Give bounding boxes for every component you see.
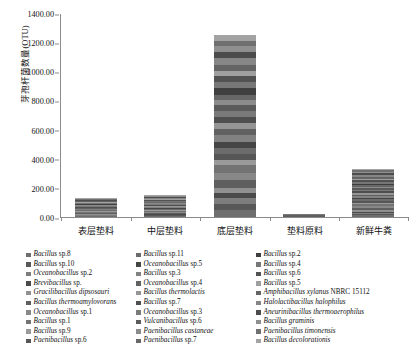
legend-item[interactable]: Brevibacillus sp. — [26, 279, 136, 289]
y-tick-label: 800.00 — [2, 97, 54, 106]
x-tick-mark — [270, 217, 271, 221]
stacked-bar[interactable] — [75, 198, 117, 217]
legend-swatch-icon — [256, 262, 261, 267]
x-tick-label: 新鲜牛粪 — [339, 218, 409, 244]
legend-label: Oceanobacillus sp.2 — [34, 269, 93, 279]
bar-group — [61, 14, 408, 217]
x-tick-label: 中层垫料 — [131, 218, 201, 244]
chart-legend: Bacillus sp.8Bacillus sp.10Oceanobacillu… — [0, 250, 416, 357]
stacked-bar[interactable] — [352, 169, 394, 217]
legend-label: Bacillus sp.4 — [264, 260, 301, 270]
legend-item[interactable]: Bacillus sp.7 — [136, 298, 256, 308]
stacked-bar[interactable] — [214, 35, 256, 217]
legend-item[interactable]: Bacillus sp.11 — [136, 250, 256, 260]
legend-item[interactable]: Oceanobacillus sp.3 — [136, 308, 256, 318]
y-tick-mark — [55, 131, 59, 132]
legend-item[interactable]: Oceanobacillus sp.2 — [26, 269, 136, 279]
legend-swatch-icon — [136, 320, 141, 325]
legend-label: Bacillus sp.8 — [34, 250, 71, 260]
y-tick-mark — [55, 43, 59, 44]
legend-label: Bacillus sp.11 — [144, 250, 184, 260]
legend-item[interactable]: Paenibacillus castaneae — [136, 327, 256, 337]
legend-label: Bacillus sp.9 — [34, 327, 71, 337]
legend-item[interactable]: Bacillus sp.2 — [256, 250, 416, 260]
legend-label: Brevibacillus sp. — [34, 279, 82, 289]
legend-swatch-icon — [136, 291, 141, 296]
legend-item[interactable]: Bacillus sp.6 — [256, 269, 416, 279]
legend-swatch-icon — [26, 272, 31, 277]
bar-slot — [61, 14, 130, 217]
legend-label: Bacillus thermoamylovorans — [34, 298, 117, 308]
chart-area: 芽孢杆菌数量(OTU) 1400.001200.001000.00800.006… — [0, 0, 416, 246]
chart-root: 芽孢杆菌数量(OTU) 1400.001200.001000.00800.006… — [0, 0, 416, 357]
legend-label: Bacillus sp.6 — [264, 269, 301, 279]
legend-label: Bacillus sp.2 — [264, 250, 301, 260]
legend-item[interactable]: Oceanobacillus sp.1 — [26, 308, 136, 318]
bar-segment — [214, 117, 256, 124]
legend-item[interactable]: Bacillus decolorationis — [256, 336, 416, 346]
legend-item[interactable]: Bacillus sp.4 — [256, 260, 416, 270]
legend-column: Bacillus sp.8Bacillus sp.10Oceanobacillu… — [26, 250, 136, 357]
legend-label: Aneurinibacillus thermoaerophilus — [264, 308, 365, 318]
legend-label: Bacillus graminis — [264, 317, 315, 327]
legend-item[interactable]: Gracilibacillus dipsosauri — [26, 288, 136, 298]
bar-segment — [214, 165, 256, 174]
legend-swatch-icon — [136, 253, 141, 258]
legend-item[interactable]: Bacillus thermoamylovorans — [26, 298, 136, 308]
plot-area: 1400.001200.001000.00800.00600.00400.002… — [60, 14, 408, 218]
bar-segment — [144, 216, 186, 217]
legend-swatch-icon — [256, 339, 261, 344]
legend-swatch-icon — [256, 310, 261, 315]
legend-swatch-icon — [26, 310, 31, 315]
x-tick-mark — [200, 217, 201, 221]
y-tick-mark — [55, 72, 59, 73]
legend-item[interactable]: Oceanobacillus sp.5 — [136, 260, 256, 270]
legend-swatch-icon — [136, 262, 141, 267]
legend-swatch-icon — [256, 291, 261, 296]
legend-label: Oceanobacillus sp.5 — [144, 260, 203, 270]
legend-item[interactable]: Vulcanibacillus sp.6 — [136, 317, 256, 327]
legend-item[interactable]: Bacillus sp.10 — [26, 260, 136, 270]
legend-item[interactable]: Aneurinibacillus thermoaerophilus — [256, 308, 416, 318]
legend-item[interactable]: Paenibacillus sp.7 — [136, 336, 256, 346]
legend-label: Bacillus sp.7 — [144, 298, 181, 308]
legend-label: Amphibacillus xylanus NBRC 15112 — [264, 288, 370, 298]
legend-item[interactable]: Paenibacillus sp.6 — [26, 336, 136, 346]
legend-item[interactable]: Bacillus sp.9 — [26, 327, 136, 337]
legend-swatch-icon — [26, 339, 31, 344]
legend-swatch-icon — [256, 253, 261, 258]
legend-item[interactable]: Bacillus sp.1 — [26, 317, 136, 327]
stacked-bar[interactable] — [283, 214, 325, 218]
legend-item[interactable]: Bacillus sp.3 — [136, 269, 256, 279]
legend-item[interactable]: Oceanobacillus sp.4 — [136, 279, 256, 289]
x-tick-mark — [408, 217, 409, 221]
legend-swatch-icon — [26, 301, 31, 306]
legend-item[interactable]: Bacillus sp.8 — [26, 250, 136, 260]
legend-swatch-icon — [136, 329, 141, 334]
legend-label: Oceanobacillus sp.1 — [34, 308, 93, 318]
legend-swatch-icon — [256, 281, 261, 286]
legend-item[interactable]: Halolactibacillus halophilus — [256, 298, 416, 308]
x-tick-mark — [339, 217, 340, 221]
legend-swatch-icon — [26, 253, 31, 258]
y-tick-mark — [55, 101, 59, 102]
legend-swatch-icon — [136, 281, 141, 286]
y-tick-mark — [55, 218, 59, 219]
bar-slot — [269, 14, 338, 217]
legend-swatch-icon — [26, 281, 31, 286]
legend-item[interactable]: Bacillus thermolactis — [136, 288, 256, 298]
legend-swatch-icon — [256, 272, 261, 277]
legend-swatch-icon — [26, 320, 31, 325]
y-tick-label: 1400.00 — [2, 10, 54, 19]
legend-item[interactable]: Paenibacillus timonensis — [256, 327, 416, 337]
legend-item[interactable]: Bacillus graminis — [256, 317, 416, 327]
legend-item[interactable]: Bacillus sp.5 — [256, 279, 416, 289]
legend-label: Gracilibacillus dipsosauri — [34, 288, 110, 298]
legend-item[interactable]: Amphibacillus xylanus NBRC 15112 — [256, 288, 416, 298]
y-tick-mark — [55, 14, 59, 15]
stacked-bar[interactable] — [144, 195, 186, 217]
legend-swatch-icon — [26, 262, 31, 267]
legend-column: Bacillus sp.11Oceanobacillus sp.5Bacillu… — [136, 250, 256, 357]
legend-label: Bacillus thermolactis — [144, 288, 205, 298]
x-tick-label: 垫料原料 — [270, 218, 340, 244]
